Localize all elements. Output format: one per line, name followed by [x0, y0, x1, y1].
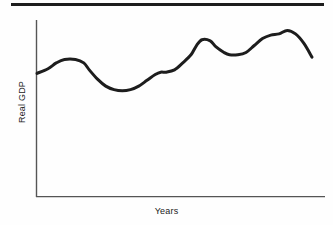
business-cycle-plot	[0, 0, 333, 225]
y-axis-label: Real GDP	[17, 72, 27, 132]
chart-figure: Real GDP Years	[0, 0, 333, 225]
series-group	[37, 30, 312, 90]
real-gdp-curve	[37, 30, 312, 90]
axes-group	[36, 20, 325, 197]
x-axis-label: Years	[0, 206, 333, 216]
